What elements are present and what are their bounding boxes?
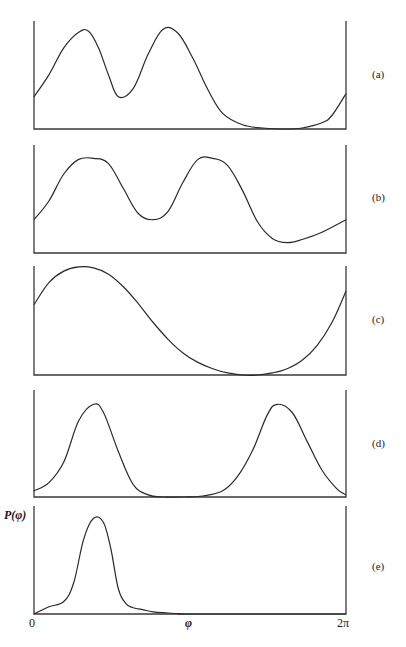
panel-b	[34, 145, 346, 253]
panel-b-frame	[34, 145, 346, 253]
panel-d-curve	[34, 404, 346, 497]
panel-a-curve	[34, 27, 346, 129]
x-tick-two-pi: 2π	[337, 616, 349, 631]
x-axis-label: φ	[185, 616, 192, 631]
panel-e-curve	[34, 517, 346, 614]
panel-label-d: (d)	[372, 437, 385, 449]
plot-area	[0, 0, 406, 647]
panel-c-frame	[34, 266, 346, 375]
panel-a	[34, 21, 346, 129]
panel-b-curve	[34, 157, 346, 243]
panel-d	[34, 390, 346, 497]
panel-label-a: (a)	[372, 68, 384, 80]
y-axis-label: P(φ)	[4, 508, 26, 523]
panel-label-c: (c)	[372, 313, 384, 325]
panel-c-curve	[34, 267, 346, 376]
figure: (a) (b) (c) (d) (e) P(φ) φ 0 2π	[0, 0, 406, 647]
panel-label-b: (b)	[372, 191, 385, 203]
panel-label-e: (e)	[372, 560, 384, 572]
panel-c	[34, 266, 346, 375]
panel-e-frame	[34, 506, 346, 614]
panel-a-frame	[34, 21, 346, 129]
panel-d-frame	[34, 390, 346, 497]
panel-e	[34, 506, 346, 614]
x-tick-zero: 0	[29, 616, 35, 631]
